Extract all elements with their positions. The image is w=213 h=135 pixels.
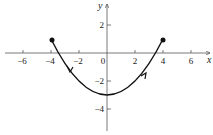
x-tick-label: 6 — [189, 56, 194, 66]
left-endpoint-dot — [50, 38, 55, 43]
y-tick-label: −2 — [94, 76, 104, 86]
x-tick-label: −4 — [45, 56, 55, 66]
x-tick-label: 2 — [133, 56, 138, 66]
x-axis-label: x — [206, 54, 212, 65]
y-tick-label: 2 — [100, 20, 105, 30]
x-tick-label: 0 — [101, 56, 106, 66]
x-tick-label: −2 — [73, 56, 83, 66]
x-tick-label: 4 — [161, 56, 166, 66]
y-ticks — [107, 25, 111, 109]
right-endpoint-dot — [161, 38, 166, 43]
x-tick-label: −6 — [17, 56, 27, 66]
y-axis-label: y — [97, 0, 103, 11]
y-tick-label: −4 — [94, 104, 104, 114]
direction-arrow-left-icon — [67, 66, 73, 72]
parametric-curve-chart: −6 −4 −2 0 2 4 6 2 −2 −4 x y — [0, 0, 213, 135]
